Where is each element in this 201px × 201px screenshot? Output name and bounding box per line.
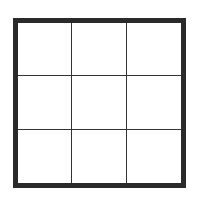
grid-cell-r3-c2 [72, 130, 126, 183]
grid-cell-r2-c2 [72, 76, 126, 129]
three-by-three-grid [13, 18, 186, 188]
grid-cell-r3-c1 [18, 130, 72, 183]
grid-cell-r1-c3 [127, 23, 181, 76]
grid-cell-r1-c1 [18, 23, 72, 76]
grid-cell-r3-c3 [127, 130, 181, 183]
grid-cell-r1-c2 [72, 23, 126, 76]
diagram-canvas [0, 0, 201, 201]
grid-cell-r2-c1 [18, 76, 72, 129]
grid-cell-r2-c3 [127, 76, 181, 129]
